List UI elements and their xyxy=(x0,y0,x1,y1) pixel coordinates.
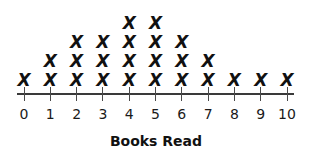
axis-tick xyxy=(260,87,261,101)
axis-tick xyxy=(287,87,288,101)
data-mark: X xyxy=(149,14,162,33)
data-mark: X xyxy=(123,14,136,33)
mark-stack: XXXX xyxy=(143,14,169,90)
x-axis-title: Books Read xyxy=(0,132,312,150)
data-mark: X xyxy=(96,33,109,52)
mark-stack: XXX xyxy=(64,33,90,90)
data-mark: X xyxy=(149,33,162,52)
data-mark: X xyxy=(70,52,83,71)
axis-tick xyxy=(102,87,103,101)
data-mark: X xyxy=(202,52,215,71)
data-mark: X xyxy=(123,52,136,71)
data-mark: X xyxy=(175,33,188,52)
mark-stack: XXX xyxy=(169,33,195,90)
axis-tick xyxy=(50,87,51,101)
axis-tick xyxy=(129,87,130,101)
axis-tick xyxy=(76,87,77,101)
axis-tick xyxy=(234,87,235,101)
data-mark: X xyxy=(175,52,188,71)
mark-stack: XX xyxy=(195,52,221,90)
data-mark: X xyxy=(149,52,162,71)
axis-tick xyxy=(181,87,182,101)
axis-tick xyxy=(155,87,156,101)
dot-plot-figure: XXXXXXXXXXXXXXXXXXXXXXXXX 012345678910 B… xyxy=(0,0,312,159)
data-mark: X xyxy=(96,52,109,71)
data-mark: X xyxy=(44,52,57,71)
mark-stack: XXX xyxy=(90,33,116,90)
data-mark: X xyxy=(123,33,136,52)
mark-stack: XX xyxy=(37,52,63,90)
axis-tick xyxy=(24,87,25,101)
axis-tick xyxy=(208,87,209,101)
data-mark: X xyxy=(70,33,83,52)
axis-tick-label: 10 xyxy=(272,106,302,123)
mark-stack: XXXX xyxy=(116,14,142,90)
plot-area: XXXXXXXXXXXXXXXXXXXXXXXXX xyxy=(0,0,312,90)
